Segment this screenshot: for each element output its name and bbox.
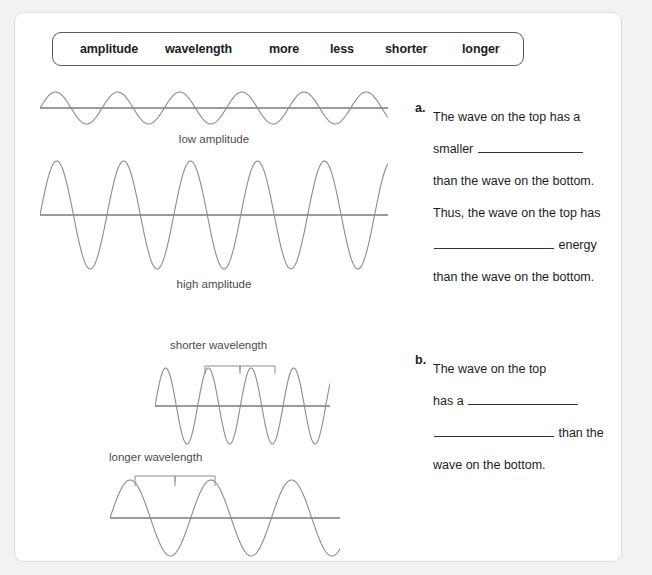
text-segment: than the: [555, 426, 604, 440]
measure-bracket-icon: [135, 476, 215, 486]
text-segment: has a: [433, 394, 467, 408]
longer-wavelength-wave-diagram: [110, 468, 340, 558]
text-segment: smaller: [433, 142, 477, 156]
question-b-line-4: wave on the bottom.: [433, 449, 625, 481]
question-a-body: The wave on the top has a smaller than t…: [433, 101, 625, 293]
high-amplitude-wave-diagram: [40, 155, 388, 275]
longer-wavelength-label: longer wavelength: [109, 451, 202, 463]
text-segment: The wave on the top has a: [433, 110, 580, 124]
low-amplitude-wave-diagram: [40, 85, 388, 131]
word-bank-item-shorter[interactable]: shorter: [385, 42, 427, 56]
low-amplitude-wave-svg: [40, 85, 388, 131]
answer-blank-b2[interactable]: [434, 425, 554, 437]
word-bank-item-less[interactable]: less: [330, 42, 354, 56]
shorter-wavelength-wave-svg: [155, 358, 330, 448]
text-segment: than the wave on the bottom.: [433, 270, 594, 284]
question-a-marker: a.: [415, 101, 425, 115]
question-b: b. The wave on the top has a than the wa…: [415, 353, 625, 481]
question-b-marker: b.: [415, 353, 426, 367]
word-bank-item-more[interactable]: more: [269, 42, 299, 56]
longer-wavelength-wave-svg: [110, 468, 340, 558]
shorter-wavelength-wave-diagram: [155, 358, 330, 448]
text-segment: Thus, the wave on the top has: [433, 206, 600, 220]
question-b-line-1: The wave on the top: [433, 353, 625, 385]
question-a-line-5: energy: [433, 229, 625, 261]
question-a-line-2: smaller: [433, 133, 625, 165]
high-amplitude-wave-svg: [40, 155, 388, 275]
text-segment: than the wave on the bottom.: [433, 174, 594, 188]
question-a-line-3: than the wave on the bottom.: [433, 165, 625, 197]
shorter-wavelength-label: shorter wavelength: [170, 339, 267, 351]
low-amplitude-caption: low amplitude: [40, 133, 388, 145]
text-segment: energy: [555, 238, 597, 252]
question-a: a. The wave on the top has a smaller tha…: [415, 101, 625, 293]
answer-blank-b1[interactable]: [468, 393, 578, 405]
question-b-line-2: has a: [433, 385, 625, 417]
answer-blank-a1[interactable]: [478, 141, 583, 153]
word-bank-item-longer[interactable]: longer: [462, 42, 500, 56]
question-a-line-4: Thus, the wave on the top has: [433, 197, 625, 229]
worksheet-page: amplitude wavelength more less shorter l…: [14, 12, 622, 562]
question-b-body: The wave on the top has a than the wave …: [433, 353, 625, 481]
question-b-line-3: than the: [433, 417, 625, 449]
word-bank: amplitude wavelength more less shorter l…: [52, 32, 524, 66]
question-a-line-6: than the wave on the bottom.: [433, 261, 625, 293]
question-a-line-1: The wave on the top has a: [433, 101, 625, 133]
word-bank-item-amplitude[interactable]: amplitude: [80, 42, 138, 56]
text-segment: wave on the bottom.: [433, 458, 546, 472]
answer-blank-a2[interactable]: [434, 237, 554, 249]
high-amplitude-caption: high amplitude: [40, 278, 388, 290]
word-bank-item-wavelength[interactable]: wavelength: [165, 42, 232, 56]
measure-bracket-icon: [205, 366, 275, 374]
text-segment: The wave on the top: [433, 362, 546, 376]
